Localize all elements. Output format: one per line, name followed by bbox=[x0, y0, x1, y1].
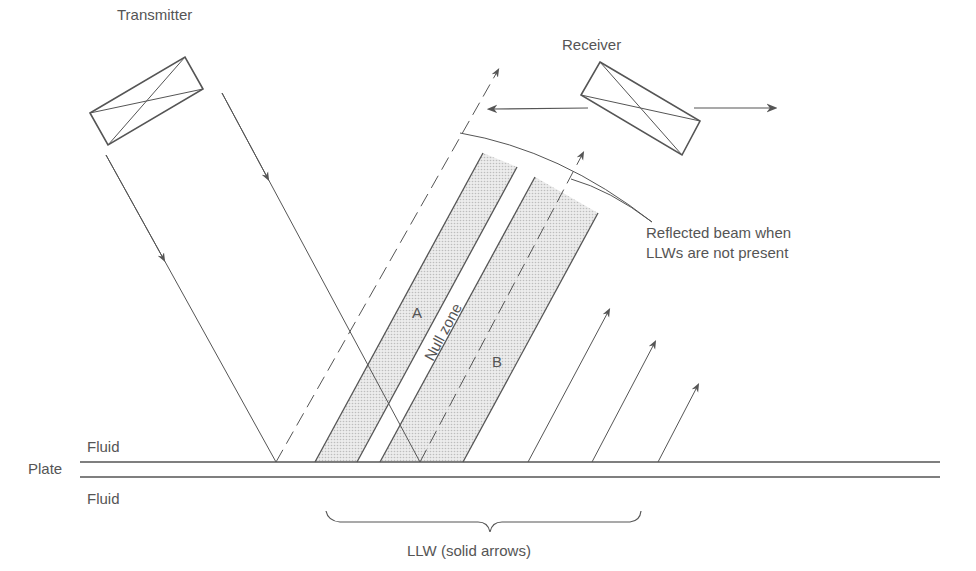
receiver-icon bbox=[581, 62, 700, 155]
incident-beam-left-arrow bbox=[106, 155, 163, 258]
reflected-beam-label-line2: LLWs are not present bbox=[646, 244, 789, 261]
incident-beam-right-arrow bbox=[222, 93, 267, 177]
llw-arrow-1 bbox=[528, 312, 608, 462]
reflected-beam-label-line1: Reflected beam when bbox=[646, 224, 791, 241]
zone-a-label: A bbox=[412, 304, 422, 321]
receiver-label: Receiver bbox=[562, 36, 621, 53]
llw-caption: LLW (solid arrows) bbox=[407, 542, 531, 559]
llw-brace bbox=[326, 511, 641, 532]
zone-b-label: B bbox=[492, 353, 502, 370]
transmitter-icon bbox=[90, 57, 203, 145]
transmitter-label: Transmitter bbox=[117, 6, 192, 23]
llw-arrow-2 bbox=[592, 344, 654, 462]
fluid-bottom-label: Fluid bbox=[87, 490, 120, 507]
llw-diagram: Transmitter Receiver Reflected beam when… bbox=[0, 0, 976, 571]
plate-label: Plate bbox=[28, 460, 62, 477]
llw-arrow-3 bbox=[658, 387, 697, 462]
receiver-move-left-arrow bbox=[492, 108, 588, 109]
specular-reflection-dashed-2 bbox=[420, 155, 582, 462]
fluid-top-label: Fluid bbox=[87, 438, 120, 455]
